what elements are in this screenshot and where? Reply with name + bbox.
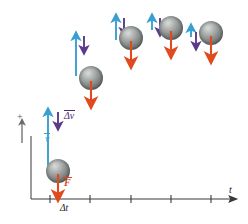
- velocity-label: v: [44, 133, 50, 144]
- force-label: F: [63, 177, 72, 188]
- ball-step-5-group: [191, 21, 223, 58]
- ball-step-4-group: [152, 16, 183, 53]
- physics-diagram: + Δv v F Δt t: [0, 0, 248, 224]
- diagram-canvas: [0, 0, 248, 224]
- ball-step-3-group: [116, 18, 143, 63]
- time-interval-label: Δt: [60, 204, 68, 214]
- time-axis-label: t: [229, 185, 232, 195]
- positive-direction-label: +: [17, 112, 23, 122]
- ball-step-2-group: [76, 36, 103, 103]
- delta-velocity-label: Δv: [64, 110, 75, 121]
